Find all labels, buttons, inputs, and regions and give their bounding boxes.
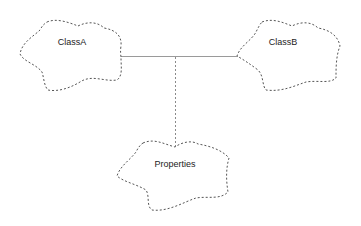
node-properties[interactable]: Properties — [117, 141, 229, 210]
cloud-shape-classA — [20, 20, 121, 90]
diagram-canvas: ClassA ClassB Properties — [0, 0, 361, 226]
cloud-shape-classB — [237, 20, 340, 90]
node-classB[interactable]: ClassB — [237, 20, 340, 90]
cloud-shape-properties — [117, 141, 229, 210]
node-label-classA: ClassA — [58, 37, 87, 47]
node-classA[interactable]: ClassA — [20, 20, 121, 90]
node-label-properties: Properties — [154, 159, 196, 169]
node-label-classB: ClassB — [269, 37, 298, 47]
